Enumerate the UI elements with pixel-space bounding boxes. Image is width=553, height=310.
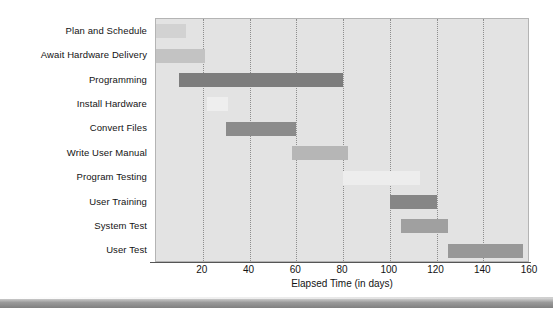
gantt-bar-plan-and-schedule bbox=[156, 24, 186, 38]
task-label-user-test: User Test bbox=[0, 244, 147, 255]
x-tick-label-100: 100 bbox=[380, 264, 397, 276]
footer-bar bbox=[0, 299, 553, 308]
gridline-140 bbox=[483, 19, 484, 261]
x-axis-title: Elapsed Time (in days) bbox=[155, 278, 529, 290]
gantt-bar-system-test bbox=[401, 219, 448, 233]
x-tick-label-20: 20 bbox=[196, 264, 207, 276]
task-label-plan-and-schedule: Plan and Schedule bbox=[0, 25, 147, 36]
gantt-bar-user-test bbox=[448, 244, 523, 258]
x-tick-label-140: 140 bbox=[474, 264, 491, 276]
x-axis-tick-labels: 20406080100120140160 bbox=[155, 264, 529, 278]
task-label-user-training: User Training bbox=[0, 196, 147, 207]
gridline-80 bbox=[343, 19, 344, 261]
x-tick-label-80: 80 bbox=[336, 264, 347, 276]
x-axis-line bbox=[150, 262, 531, 263]
task-label-system-test: System Test bbox=[0, 220, 147, 231]
gridline-40 bbox=[250, 19, 251, 261]
task-label-programming: Programming bbox=[0, 74, 147, 85]
gantt-plot-area bbox=[155, 18, 529, 262]
task-label-await-hardware-delivery: Await Hardware Delivery bbox=[0, 49, 147, 60]
x-tick-label-120: 120 bbox=[427, 264, 444, 276]
task-label-convert-files: Convert Files bbox=[0, 122, 147, 133]
task-label-write-user-manual: Write User Manual bbox=[0, 147, 147, 158]
x-tick-label-160: 160 bbox=[521, 264, 538, 276]
gantt-bar-program-testing bbox=[343, 171, 420, 185]
x-tick-label-60: 60 bbox=[290, 264, 301, 276]
task-label-axis: Plan and ScheduleAwait Hardware Delivery… bbox=[0, 18, 147, 262]
gantt-bar-install-hardware bbox=[207, 97, 228, 111]
task-label-install-hardware: Install Hardware bbox=[0, 98, 147, 109]
gantt-chart-figure: Plan and ScheduleAwait Hardware Delivery… bbox=[0, 0, 553, 310]
gridline-60 bbox=[296, 19, 297, 261]
x-tick-label-40: 40 bbox=[243, 264, 254, 276]
gantt-bar-convert-files bbox=[226, 122, 296, 136]
gantt-bar-programming bbox=[179, 73, 343, 87]
gantt-bar-await-hardware-delivery bbox=[156, 49, 205, 63]
gantt-bar-write-user-manual bbox=[292, 146, 348, 160]
task-label-program-testing: Program Testing bbox=[0, 171, 147, 182]
gridline-100 bbox=[390, 19, 391, 261]
gantt-bar-user-training bbox=[390, 195, 437, 209]
